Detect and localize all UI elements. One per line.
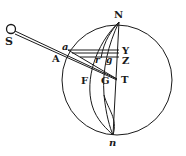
label-a: a — [62, 41, 68, 52]
label-T: T — [121, 74, 129, 85]
label-S: S — [5, 35, 13, 48]
label-A: A — [51, 53, 60, 64]
label-N: N — [114, 9, 123, 20]
label-Z: Z — [122, 55, 129, 66]
sun-circle — [7, 25, 16, 34]
label-G: G — [101, 75, 110, 86]
geometry-diagram: S N n a A Y Z T F G r g — [0, 0, 186, 156]
curve-lower — [104, 95, 114, 135]
label-n: n — [109, 137, 116, 148]
label-F: F — [81, 75, 88, 86]
label-g: g — [106, 55, 112, 65]
